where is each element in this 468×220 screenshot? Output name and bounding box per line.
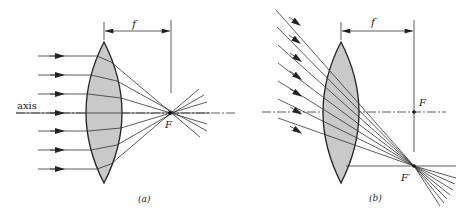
panel-a: axis (16, 18, 236, 204)
arrow-icon (290, 89, 298, 94)
lens-diagram: axis (0, 0, 468, 220)
caption-b: (b) (369, 193, 382, 203)
focal-length-label-b: f (370, 16, 377, 29)
arrow-icon (290, 107, 298, 112)
caption-a: (a) (138, 194, 151, 204)
emergent-rays-a (111, 62, 210, 164)
incident-rays-a (16, 56, 97, 169)
focal-point-b (412, 110, 416, 114)
off-axis-focus-label: F′ (400, 172, 411, 183)
oblique-rays-b (276, 10, 456, 166)
focus-label-a: F (164, 119, 173, 130)
arrow-icon (290, 53, 298, 59)
axis-label: axis (17, 100, 37, 111)
focus-label-b: F (418, 97, 427, 108)
arrow-icon (289, 17, 297, 23)
focal-length-label-a: f (131, 18, 138, 31)
arrow-icon (290, 71, 298, 77)
off-axis-focal-point (412, 164, 416, 168)
panel-b: f F F′ (b) (262, 10, 456, 206)
diverging-rays-b (414, 166, 456, 206)
focal-point-a (168, 111, 172, 115)
incident-arrows-b (289, 17, 298, 131)
convex-lens-a (86, 42, 122, 183)
arrow-icon (290, 126, 298, 131)
